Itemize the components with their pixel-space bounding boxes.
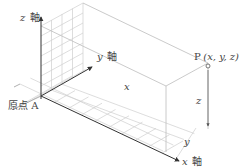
point-p-marker (206, 64, 210, 68)
origin-label: 原点 A (8, 100, 39, 111)
y-dimension-label: y (183, 136, 190, 147)
z-dimension-label: z (195, 95, 202, 106)
wall-grid (41, 3, 83, 90)
x-axis-label: x 軸 (182, 155, 202, 167)
x-axis (41, 96, 179, 161)
point-p-label: P (x, y, z) (194, 51, 239, 62)
z-axis-label: z 軸 (19, 11, 40, 23)
x-dimension-label: x (124, 81, 130, 92)
y-axis-label: y 軸 (96, 50, 117, 62)
coordinate-diagram: z 軸 y 軸 x 軸 原点 A P (x, y, z) x y z (0, 0, 248, 168)
